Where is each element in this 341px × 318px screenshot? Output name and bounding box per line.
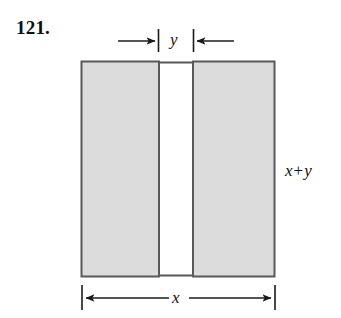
dimension-label-x: x [172, 289, 180, 306]
left-shaded-region [82, 62, 160, 277]
figure-page: 121. y x x+y [0, 0, 341, 318]
dimension-label-x-plus-y: x+y [285, 162, 312, 179]
height-operator: + [293, 161, 305, 180]
height-var2: y [304, 161, 312, 180]
right-shaded-region [193, 62, 275, 277]
height-var1: x [285, 161, 293, 180]
dimension-label-y: y [170, 31, 178, 48]
